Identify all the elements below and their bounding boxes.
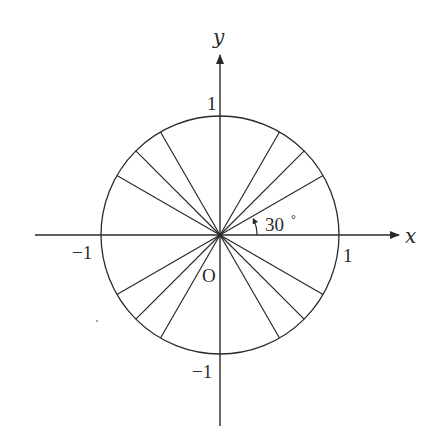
y-tick-positive: 1 [207, 93, 217, 114]
x-tick-negative: −1 [72, 242, 92, 263]
ray-330-deg [220, 235, 323, 295]
angle-arc-marker [253, 219, 257, 235]
ray-315-deg [220, 235, 304, 319]
ray-300-deg [220, 235, 280, 338]
unit-circle-diagram: x y 1 −1 1 −1 O 30 ° [0, 0, 440, 448]
y-tick-negative: −1 [192, 361, 212, 382]
angle-value: 30 [265, 214, 284, 235]
ray-240-deg [161, 235, 221, 338]
x-axis-label: x [405, 224, 416, 248]
x-tick-positive: 1 [343, 245, 353, 266]
ray-135-deg [136, 151, 220, 235]
angle-unit: ° [291, 212, 296, 226]
ray-120-deg [161, 132, 221, 235]
angle-label: 30 ° [265, 212, 296, 235]
origin-label: O [202, 265, 216, 286]
ray-150-deg [117, 176, 220, 236]
stray-dot [96, 320, 98, 322]
y-axis-label: y [212, 25, 225, 49]
